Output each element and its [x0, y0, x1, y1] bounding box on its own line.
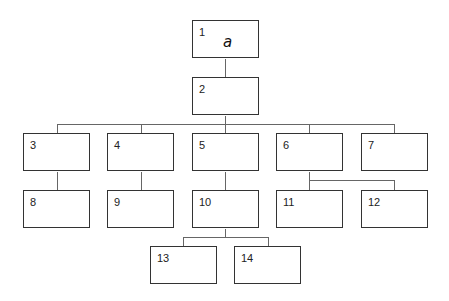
node-label: 10 [199, 196, 211, 208]
node-10: 10 [192, 190, 259, 228]
node-1: 1 a [192, 20, 259, 58]
connector-6-bus [309, 180, 394, 181]
connector-bus-4 [141, 124, 142, 133]
node-4: 4 [107, 133, 174, 171]
connector-bus-13 [183, 237, 184, 246]
connector-bus-6 [309, 124, 310, 133]
node-label: 6 [283, 139, 289, 151]
node-3: 3 [23, 133, 90, 171]
node-label: 9 [114, 196, 120, 208]
node-label: 11 [283, 196, 294, 208]
node-label: 2 [199, 83, 205, 95]
node-symbol: a [223, 33, 232, 51]
node-label: 3 [30, 139, 36, 151]
connector-bus-3 [57, 124, 58, 133]
node-9: 9 [107, 190, 174, 228]
connector-bus-5 [225, 124, 226, 133]
node-7: 7 [361, 133, 428, 171]
connector-bus-12 [394, 180, 395, 190]
node-8: 8 [23, 190, 90, 228]
connector-bus-7 [394, 124, 395, 133]
node-label: 8 [30, 196, 36, 208]
connector-bus-14 [268, 237, 269, 246]
node-label: 12 [368, 196, 380, 208]
connector-1-2 [225, 59, 226, 77]
node-14: 14 [234, 246, 301, 284]
node-label: 14 [241, 252, 253, 264]
node-label: 1 [199, 26, 205, 38]
connector-4-9 [141, 172, 142, 190]
connector-2-down [225, 116, 226, 124]
connector-10-bus [183, 237, 268, 238]
connector-6-down [309, 172, 310, 190]
node-12: 12 [361, 190, 428, 228]
connector-5-10 [225, 172, 226, 190]
connector-row2-bus [57, 124, 395, 125]
connector-10-down [225, 229, 226, 237]
node-label: 5 [199, 139, 205, 151]
node-5: 5 [192, 133, 259, 171]
node-6: 6 [276, 133, 343, 171]
node-label: 4 [114, 139, 120, 151]
node-2: 2 [192, 77, 259, 115]
node-13: 13 [150, 246, 217, 284]
node-label: 13 [157, 252, 169, 264]
node-label: 7 [368, 139, 374, 151]
connector-3-8 [57, 172, 58, 190]
node-11: 11 [276, 190, 343, 228]
